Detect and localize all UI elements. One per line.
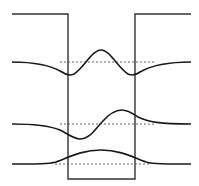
wavefunction-n2 xyxy=(12,110,191,139)
potential-well-outline xyxy=(12,14,191,179)
wavefunction-n1 xyxy=(12,150,191,164)
potential-well-diagram xyxy=(0,0,199,186)
wavefunction-n3 xyxy=(12,50,191,75)
